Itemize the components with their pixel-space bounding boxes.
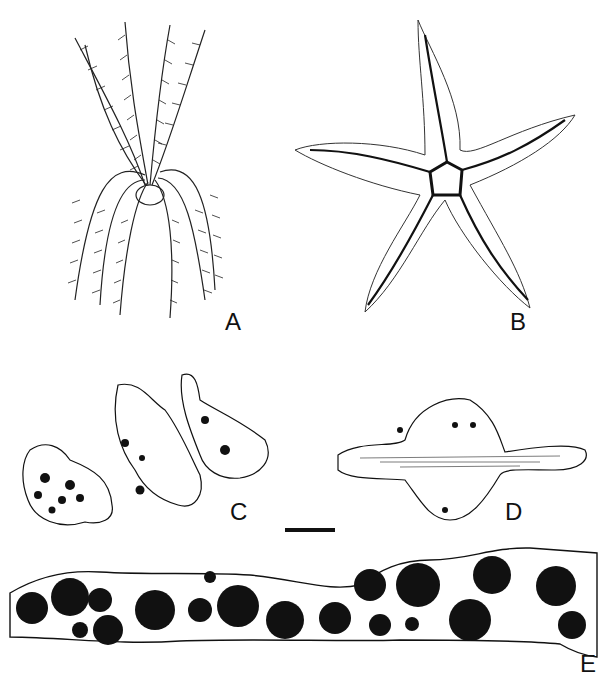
- ossicle-section-d: [338, 399, 586, 520]
- scale-bar: [285, 528, 335, 532]
- panel-label-c: C: [230, 498, 247, 525]
- panel-label-e: E: [580, 650, 596, 677]
- panel-label-a: A: [225, 308, 241, 335]
- starfish-drawing: [295, 20, 575, 312]
- panel-label-b: B: [510, 308, 526, 335]
- starfish-ambulacral-grooves: [310, 35, 565, 305]
- panel-label-d: D: [505, 498, 522, 525]
- figure-canvas: A B C D: [0, 0, 608, 679]
- crinoid-drawing: [68, 22, 223, 318]
